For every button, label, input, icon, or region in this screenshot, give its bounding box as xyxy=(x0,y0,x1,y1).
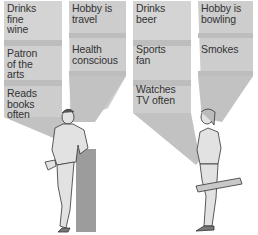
trait-hobby-is-bowling: Hobby is bowling xyxy=(201,3,241,24)
illustration-graphics xyxy=(0,0,258,235)
trait-health-conscious: Health conscious xyxy=(72,44,118,65)
trait-smokes: Smokes xyxy=(201,44,238,55)
trait-patron-of-the-arts: Patron of the arts xyxy=(7,48,37,80)
right-man-figure xyxy=(196,109,242,231)
trait-drinks-beer: Drinks beer xyxy=(136,3,165,24)
pillar xyxy=(76,149,96,232)
trait-watches-tv-often: Watches TV often xyxy=(136,84,176,105)
trait-sports-fan: Sports fan xyxy=(136,44,166,65)
trait-drinks-fine-wine: Drinks fine wine xyxy=(7,3,36,35)
trait-reads-books-often: Reads books often xyxy=(7,88,37,120)
trait-hobby-is-travel: Hobby is travel xyxy=(72,3,112,24)
lifestyle-illustration: Drinks fine wine Patron of the arts Read… xyxy=(0,0,258,235)
